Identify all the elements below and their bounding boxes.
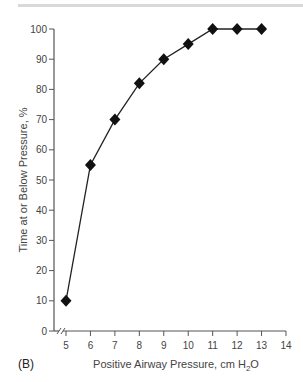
y-tick-label: 30 — [36, 235, 48, 246]
diamond-marker — [232, 23, 243, 35]
x-tick-label: 8 — [137, 340, 143, 351]
x-tick-label: 12 — [232, 340, 244, 351]
y-tick-label: 0 — [41, 326, 47, 337]
y-tick-label: 40 — [36, 205, 48, 216]
x-tick-label: 13 — [256, 340, 268, 351]
x-tick-label: 7 — [112, 340, 118, 351]
y-tick-label: 100 — [30, 24, 47, 35]
diamond-marker — [256, 23, 267, 35]
line-chart: 0102030405060708090100567891011121314 Ti… — [0, 0, 303, 382]
x-tick-label: 9 — [161, 340, 167, 351]
x-tick-label: 6 — [88, 340, 94, 351]
data-series — [61, 23, 268, 307]
diamond-marker — [109, 114, 120, 126]
y-tick-label: 10 — [36, 295, 48, 306]
y-tick-label: 70 — [36, 114, 48, 125]
diamond-marker — [85, 159, 96, 171]
y-tick-label: 80 — [36, 84, 48, 95]
panel-label: (B) — [18, 357, 34, 371]
diamond-marker — [207, 23, 218, 35]
y-tick-label: 20 — [36, 265, 48, 276]
y-tick-label: 90 — [36, 54, 48, 65]
x-axis-title: Positive Airway Pressure, cm H2O — [93, 358, 259, 373]
x-tick-label: 10 — [183, 340, 195, 351]
x-tick-label: 14 — [280, 340, 292, 351]
x-tick-label: 11 — [207, 340, 218, 351]
diamond-marker — [61, 295, 72, 307]
x-tick-label: 5 — [63, 340, 69, 351]
y-tick-label: 60 — [36, 144, 48, 155]
diamond-marker — [183, 38, 194, 50]
y-tick-label: 50 — [36, 175, 48, 186]
y-axis-title: Time at or Below Pressure, % — [17, 107, 29, 252]
